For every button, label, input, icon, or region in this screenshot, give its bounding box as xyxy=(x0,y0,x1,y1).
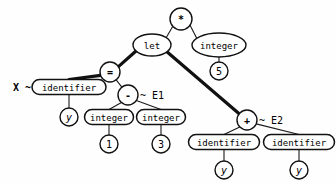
node-eq[interactable]: = xyxy=(100,62,120,82)
node-integer-3[interactable]: integer xyxy=(137,110,186,125)
edge-minus-to-integer_3 xyxy=(136,101,161,110)
node-let-label: let xyxy=(144,41,160,51)
node-integer-top[interactable]: integer xyxy=(192,33,246,57)
node-one[interactable]: 1 xyxy=(100,135,118,153)
node-five-label: 5 xyxy=(216,66,222,77)
syntax-tree-diagram: * let integer 5 = identifier xyxy=(0,0,336,185)
edge-plus-to-identifier_y1 xyxy=(224,127,240,135)
annotation-label-e1: ~ E1 xyxy=(140,90,164,101)
node-y-2-label: y xyxy=(295,165,302,176)
edge-root_mul-to-integer_top xyxy=(190,25,197,38)
node-integer-1[interactable]: integer xyxy=(85,110,134,125)
tree-svg: * let integer 5 = identifier xyxy=(0,0,336,185)
edge-let-to-plus xyxy=(167,52,239,114)
node-root-mul-label: * xyxy=(178,14,184,25)
edge-let-to-eq xyxy=(118,51,136,67)
node-minus[interactable]: - xyxy=(118,85,138,105)
node-three-label: 3 xyxy=(158,139,164,150)
node-minus-label: - xyxy=(125,90,131,101)
edge-eq-to-minus xyxy=(116,80,122,87)
node-root-mul[interactable]: * xyxy=(170,8,192,30)
node-plus[interactable]: + xyxy=(237,110,257,130)
node-plus-label: + xyxy=(244,115,250,126)
node-let[interactable]: let xyxy=(133,34,171,56)
node-integer-top-label: integer xyxy=(200,41,239,51)
node-identifier-x-label: identifier xyxy=(42,83,97,93)
node-y-1-label: y xyxy=(220,165,227,176)
node-eq-label: = xyxy=(107,67,113,78)
node-identifier-y2[interactable]: identifier xyxy=(264,135,335,150)
node-integer-3-label: integer xyxy=(142,113,181,123)
node-identifier-y2-label: identifier xyxy=(272,138,327,148)
edge-minus-to-integer_1 xyxy=(109,103,121,110)
edge-root_mul-to-let xyxy=(166,26,173,37)
annotation-bind-x: X ~ xyxy=(13,82,31,93)
node-five[interactable]: 5 xyxy=(210,62,228,80)
node-y-1[interactable]: y xyxy=(215,161,233,179)
node-identifier-y1[interactable]: identifier xyxy=(189,135,260,150)
node-identifier-y1-label: identifier xyxy=(197,138,252,148)
node-y-x[interactable]: y xyxy=(60,108,78,126)
node-integer-1-label: integer xyxy=(90,113,129,123)
node-y-2[interactable]: y xyxy=(290,161,308,179)
node-y-x-label: y xyxy=(65,112,72,123)
node-three[interactable]: 3 xyxy=(152,135,170,153)
annotation-label-e2: ~ E2 xyxy=(259,115,283,126)
node-one-label: 1 xyxy=(106,139,112,150)
node-identifier-x[interactable]: identifier xyxy=(32,80,106,95)
